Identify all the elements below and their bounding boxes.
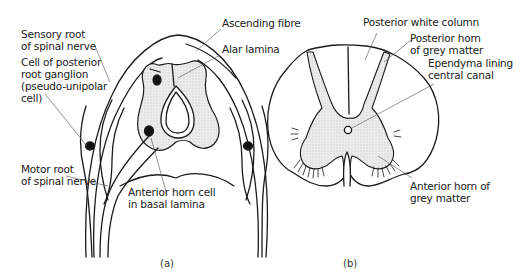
anterior-median-fissure (344, 152, 351, 186)
floor-plate (120, 174, 234, 186)
figure-b-drawing (268, 45, 439, 186)
label-alar-lamina: Alar lamina (222, 43, 280, 55)
posterior-median-septum (348, 47, 349, 114)
label-posterior-horn: Posterior horn of grey matter (410, 32, 483, 56)
label-anterior-horn: Anterior horn of grey matter (410, 180, 490, 204)
label-ganglion-cell: Cell of posterior root ganglion (pseudo-… (21, 56, 107, 104)
label-ependyma: Ependyma lining central canal (428, 57, 513, 81)
right-ganglion-cell (244, 142, 253, 150)
caption-b: (b) (343, 258, 357, 269)
figure-a-drawing (80, 35, 268, 257)
central-canal-b (344, 126, 351, 133)
label-ascending-fibre: Ascending fibre (222, 17, 301, 29)
label-anterior-horn-cell: Anterior horn cell in basal lamina (128, 186, 215, 210)
spinal-cord-outline (268, 45, 439, 186)
label-motor-root: Motor root of spinal nerve (21, 163, 96, 187)
alar-neuron (153, 75, 161, 85)
label-posterior-white-column: Posterior white column (363, 16, 479, 28)
anterior-horn-cell (145, 126, 154, 136)
label-sensory-root: Sensory root of spinal nerve (21, 28, 96, 52)
caption-a: (a) (160, 258, 174, 269)
